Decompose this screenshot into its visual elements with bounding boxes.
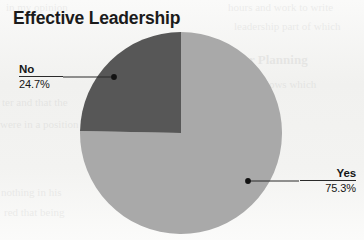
ghost-text-line: red that being [4, 206, 64, 218]
ghost-text-line: nothing in his [1, 186, 62, 198]
ghost-text-line: ter and that the [2, 96, 68, 108]
ghost-text-line: were in a position [0, 118, 79, 130]
callout-yes-rule [300, 180, 356, 181]
pie-slice-no[interactable] [80, 32, 181, 133]
pie-graphic [80, 32, 282, 234]
callout-yes-percent: 75.3% [300, 182, 356, 194]
callout-no-label: No [19, 63, 63, 75]
callout-no-rule [19, 76, 63, 77]
callout-yes-label: Yes [300, 167, 356, 179]
pie-svg [80, 32, 282, 234]
callout-yes: Yes 75.3% [300, 167, 356, 194]
ghost-text-line: hours and work to write [228, 1, 333, 13]
ghost-text-line: leadership part of which [234, 20, 341, 32]
callout-no: No 24.7% [19, 63, 63, 90]
chart-title: Effective Leadership [13, 8, 180, 29]
callout-no-percent: 24.7% [19, 78, 63, 90]
pie-chart-figure: in my opinion hours and work to write le… [0, 0, 364, 240]
